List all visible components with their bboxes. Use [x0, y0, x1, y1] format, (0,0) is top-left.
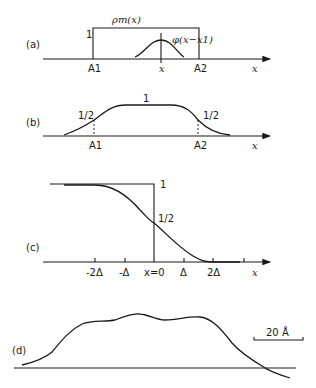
panel-b-plateau-label: 1 — [143, 93, 149, 104]
panel-a-box-height-label: 1 — [86, 29, 92, 40]
panel-c-step-label: 1 — [160, 179, 166, 190]
panel-c: (c) 1 1/2 -2Δ -Δ x=0 Δ 2Δ x — [26, 179, 270, 278]
panel-d-label: (d) — [12, 345, 26, 356]
panel-b-tick-a2: A2 — [194, 140, 207, 151]
panel-c-tick-2delta: 2Δ — [207, 267, 220, 278]
panel-c-tick-zero: x=0 — [144, 267, 165, 278]
panel-b-tick-a1: A1 — [89, 140, 102, 151]
panel-b: (b) 1 1/2 1/2 A1 A2 x — [26, 93, 270, 151]
panel-a-tick-a2: A2 — [194, 63, 207, 74]
panel-d-scale-bar-label: 20 Å — [266, 326, 289, 338]
panel-a-tick-a1: A1 — [88, 63, 101, 74]
panel-b-half-label-left: 1/2 — [78, 110, 94, 121]
panel-c-half-label: 1/2 — [158, 213, 174, 224]
panel-a-tick-x: x — [159, 63, 165, 74]
panel-c-axis-label: x — [252, 267, 258, 278]
panel-b-axis-label: x — [252, 140, 258, 151]
panel-a: (a) 1 ρm(x) φ(x−x1) A1 x A2 x — [26, 14, 270, 74]
panel-b-label: (b) — [26, 117, 40, 128]
panel-c-tick-minus-delta: -Δ — [119, 267, 130, 278]
panel-d: (d) 20 Å — [12, 314, 303, 378]
panel-a-axis-label: x — [252, 63, 258, 74]
panel-a-gaussian-label: φ(x−x1) — [172, 34, 213, 45]
panel-a-box-label: ρm(x) — [111, 14, 141, 25]
panel-c-error-function-curve — [64, 185, 240, 262]
panel-c-tick-minus-2delta: -2Δ — [86, 267, 103, 278]
panel-c-label: (c) — [26, 242, 39, 253]
density-profile-figure: (a) 1 ρm(x) φ(x−x1) A1 x A2 x (b) 1 1/2 … — [0, 0, 316, 388]
panel-c-tick-delta: Δ — [180, 267, 187, 278]
panel-b-half-label-right: 1/2 — [203, 110, 219, 121]
panel-c-step-function — [50, 184, 154, 262]
panel-a-label: (a) — [26, 39, 40, 50]
